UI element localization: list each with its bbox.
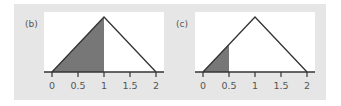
panel-label-b: (b) [25, 19, 38, 29]
tick-label: 1.5 [273, 80, 288, 91]
figure-canvas: (b) 0 0.5 1 1.5 2 (c) 0 0.5 1 1.5 2 [0, 0, 341, 106]
panel-label-c: (c) [176, 19, 188, 29]
tick-label: 0.5 [70, 80, 85, 91]
tick-label: 2 [153, 80, 159, 91]
panel-b: (b) 0 0.5 1 1.5 2 [25, 12, 164, 91]
tick-label: 0.5 [221, 80, 236, 91]
tick-label: 1.5 [122, 80, 137, 91]
tick-label: 2 [304, 80, 310, 91]
panel-c: (c) 0 0.5 1 1.5 2 [176, 12, 315, 91]
tick-label: 1 [252, 80, 258, 91]
tick-label: 1 [101, 80, 107, 91]
tick-label: 0 [49, 80, 55, 91]
tick-label: 0 [200, 80, 206, 91]
